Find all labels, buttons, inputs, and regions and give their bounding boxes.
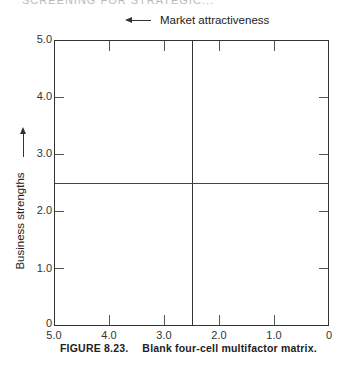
left-arrow-icon <box>127 20 151 21</box>
x-tick-label: 4.0 <box>94 329 124 341</box>
y-tick-label: 5.0 <box>16 33 52 45</box>
y-tick-label: 3.0 <box>16 147 52 159</box>
x-tick-label: 2.0 <box>204 329 234 341</box>
figure-caption: FIGURE 8.23.Blank four-cell multifactor … <box>60 342 317 354</box>
x-axis-title-label: Market attractiveness <box>160 14 269 26</box>
horizontal-divider <box>55 183 328 184</box>
figure-number: FIGURE 8.23. <box>60 342 128 354</box>
y-tick-label: 2.0 <box>16 204 52 216</box>
y-tick-label: 4.0 <box>16 90 52 102</box>
x-tick-label: 3.0 <box>149 329 179 341</box>
x-tick-label: 0 <box>314 329 344 341</box>
page-header-fragment: SCREENING FOR STRATEGIC... <box>22 0 214 6</box>
y-tick-label: 1.0 <box>16 262 52 274</box>
x-tick-label: 5.0 <box>39 329 69 341</box>
matrix-plot-area <box>54 40 329 326</box>
y-tick-label: 0 <box>16 317 52 329</box>
x-tick-label: 1.0 <box>259 329 289 341</box>
figure-caption-text: Blank four-cell multifactor matrix. <box>142 342 316 354</box>
